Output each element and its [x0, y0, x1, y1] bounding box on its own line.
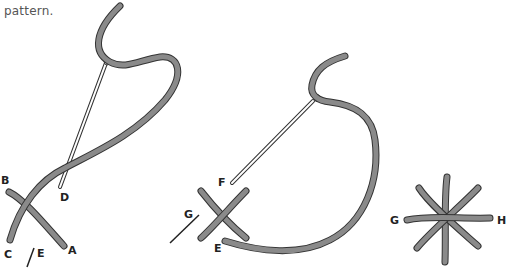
star-stitch	[407, 177, 490, 262]
label-e2: E	[214, 242, 222, 255]
label-d: D	[60, 191, 69, 204]
label-c: C	[4, 248, 12, 261]
label-e: E	[37, 247, 45, 260]
label-f: F	[218, 176, 226, 189]
label-h: H	[497, 214, 506, 227]
thread-c-loop	[10, 6, 178, 240]
label-g3: G	[390, 214, 399, 227]
label-b: B	[1, 174, 9, 187]
label-a: A	[68, 244, 77, 257]
figure-step-2: F G E	[170, 56, 376, 255]
figure-step-1: B A C D E	[1, 6, 178, 267]
needle-icon	[232, 95, 320, 184]
label-g: G	[184, 208, 193, 221]
figure-step-3: G H	[390, 177, 506, 262]
guide-line-e	[27, 248, 34, 267]
embroidery-illustration: B A C D E F G E	[0, 0, 506, 275]
cross-stitch	[201, 191, 246, 238]
thread-e-loop	[225, 56, 376, 251]
